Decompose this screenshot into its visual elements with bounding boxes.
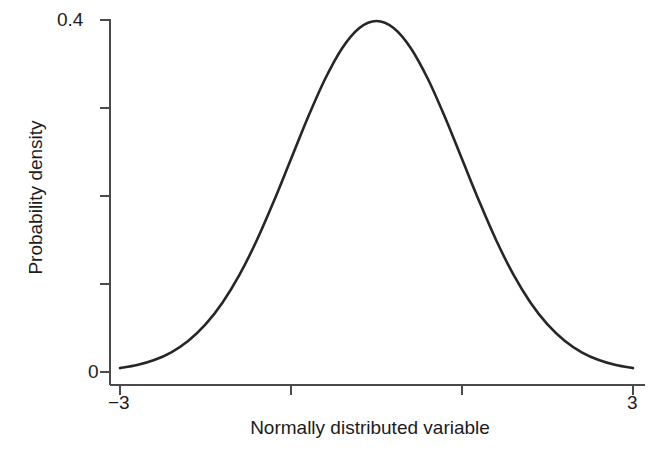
x-axis-tick-label-right: 3 xyxy=(627,393,638,412)
density-curve xyxy=(120,21,633,368)
plot-area xyxy=(0,0,661,461)
x-axis-title: Normally distributed variable xyxy=(180,418,560,437)
x-axis-tick-label-left: −3 xyxy=(108,393,130,412)
normal-distribution-chart: 0.4 0 −3 3 Normally distributed variable… xyxy=(0,0,661,461)
y-axis-tick-label-top: 0.4 xyxy=(57,10,83,29)
y-axis-tick-label-bottom: 0 xyxy=(88,362,99,381)
y-axis-title: Probability density xyxy=(26,98,45,298)
